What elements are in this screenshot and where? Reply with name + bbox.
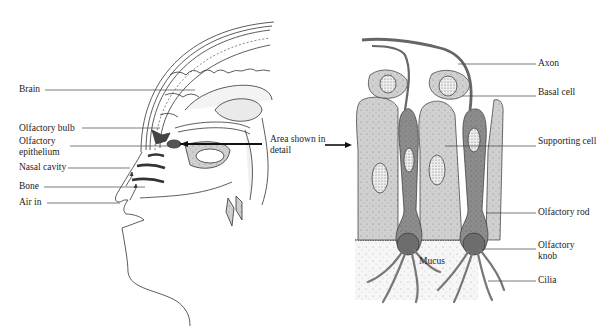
label-olfactory-knob: Olfactory knob xyxy=(538,240,590,262)
label-air-in: Air in xyxy=(19,197,41,208)
label-mucus: Mucus xyxy=(419,256,445,267)
label-bone: Bone xyxy=(19,181,39,192)
head-section xyxy=(116,22,274,326)
label-axon: Axon xyxy=(538,58,559,69)
label-nasal-cavity: Nasal cavity xyxy=(19,162,66,173)
label-cilia: Cilia xyxy=(538,275,556,286)
label-area-shown-in-detail: Area shown in detail xyxy=(270,134,328,156)
olfactory-diagram xyxy=(0,0,610,327)
label-brain: Brain xyxy=(19,84,40,95)
label-olfactory-rod: Olfactory rod xyxy=(538,207,589,218)
label-basal-cell: Basal cell xyxy=(538,87,578,98)
label-supporting-cell: Supporting cell xyxy=(538,136,598,147)
label-olfactory-bulb: Olfactory bulb xyxy=(19,123,75,134)
label-olfactory-epithelium: Olfactory epithelium xyxy=(19,136,77,158)
